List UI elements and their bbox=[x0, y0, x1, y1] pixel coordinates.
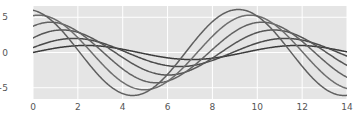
chart-figure: 02468101214 −505 bbox=[0, 0, 360, 131]
plot-canvas bbox=[33, 6, 347, 99]
y-tick-label: −5 bbox=[0, 83, 8, 93]
plot-area bbox=[33, 6, 347, 99]
x-tick-label: 12 bbox=[296, 102, 307, 112]
x-tick-label: 2 bbox=[75, 102, 81, 112]
x-tick-label: 8 bbox=[210, 102, 216, 112]
x-tick-label: 6 bbox=[165, 102, 171, 112]
y-tick-label: 0 bbox=[2, 48, 8, 58]
y-tick-label: 5 bbox=[2, 12, 8, 22]
x-tick-label: 0 bbox=[30, 102, 36, 112]
x-tick-label: 10 bbox=[252, 102, 263, 112]
x-tick-label: 4 bbox=[120, 102, 126, 112]
x-tick-label: 14 bbox=[341, 102, 352, 112]
